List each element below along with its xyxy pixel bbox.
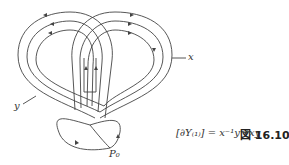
left-outer-loop — [18, 12, 112, 118]
arrow-icon — [84, 66, 88, 70]
arrow-icon — [48, 31, 52, 35]
bottom-right-arc — [90, 120, 120, 148]
x-label: x — [188, 51, 194, 62]
arrow-icon — [50, 22, 54, 26]
arrow-icon — [128, 31, 132, 35]
arrow-icon — [75, 140, 79, 145]
left-middle-loop — [27, 21, 102, 112]
arrow-icon — [94, 66, 98, 70]
y-leader — [23, 96, 36, 104]
y-label: y — [14, 100, 20, 111]
inner-u — [84, 58, 96, 92]
bottom-left-arc — [57, 119, 110, 150]
p0-label: P₀ — [109, 148, 120, 159]
center-stem — [90, 125, 110, 148]
figure-caption: 図 16.10 — [240, 126, 289, 142]
